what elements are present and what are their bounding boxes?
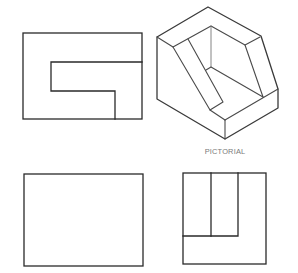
- pictorial-view: [157, 7, 278, 139]
- top-view: [23, 33, 142, 119]
- side-view: [183, 173, 266, 264]
- front-view: [24, 174, 143, 266]
- top-view-outline: [23, 33, 142, 119]
- pictorial-step-top-edge: [225, 89, 278, 120]
- pictorial-top-rim: [157, 26, 260, 47]
- pictorial-outline: [157, 7, 278, 139]
- pictorial-slot: [173, 39, 223, 110]
- pictorial-incline-edge: [245, 45, 263, 97]
- top-view-notch: [51, 62, 142, 119]
- pictorial-step-left-edge: [210, 110, 225, 120]
- orthographic-drawing: [0, 0, 298, 273]
- side-view-outline: [183, 173, 266, 264]
- front-view-outline: [24, 174, 143, 266]
- pictorial-label: PICTORIAL: [201, 147, 249, 156]
